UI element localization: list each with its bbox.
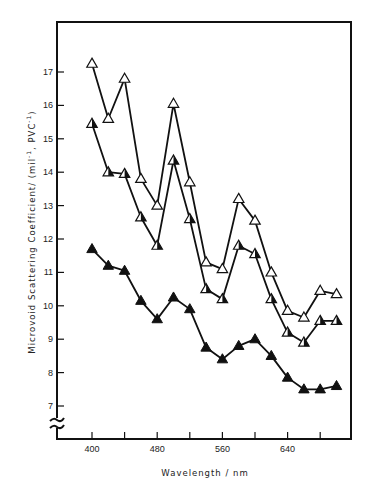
- open-triangle-marker: [119, 73, 129, 82]
- filled-triangle-marker: [168, 292, 178, 301]
- open-triangle-marker: [282, 305, 292, 314]
- series-open: [87, 58, 342, 321]
- plot-frame: [57, 22, 351, 439]
- data-series: [87, 58, 342, 393]
- y-axis-break-icon: [50, 418, 64, 428]
- y-tick-label: 15: [43, 134, 53, 144]
- open-triangle-marker: [185, 177, 195, 186]
- y-axis-ticks: 7891011121314151617: [43, 67, 64, 411]
- y-tick-label: 17: [43, 67, 53, 77]
- open-triangle-marker: [103, 113, 113, 122]
- y-tick-label: 13: [43, 201, 53, 211]
- filled-triangle-marker: [201, 342, 211, 351]
- open-triangle-marker: [266, 267, 276, 276]
- y-tick-label: 8: [48, 368, 53, 378]
- y-tick-label: 7: [48, 401, 53, 411]
- x-tick-label: 480: [150, 444, 165, 454]
- filled-triangle-marker: [87, 244, 97, 253]
- filled-triangle-marker: [331, 380, 341, 389]
- x-tick-label: 640: [280, 444, 295, 454]
- x-tick-label: 560: [215, 444, 230, 454]
- y-axis-title: Microvoid Scattering Coefficient/ (mil-1…: [25, 110, 37, 353]
- y-tick-label: 12: [43, 234, 53, 244]
- filled-triangle-marker: [136, 295, 146, 304]
- open-triangle-marker: [168, 98, 178, 107]
- filled-triangle-marker: [185, 304, 195, 313]
- y-tick-label: 11: [44, 267, 53, 277]
- x-axis-ticks: 400480560640: [84, 432, 320, 454]
- x-axis-title: Wavelength / nm: [161, 468, 248, 478]
- open-triangle-marker: [201, 257, 211, 266]
- filled-triangle-marker: [250, 334, 260, 343]
- open-triangle-marker: [233, 193, 243, 202]
- x-tick-label: 400: [84, 444, 99, 454]
- open-triangle-marker: [152, 200, 162, 209]
- filled-triangle-marker: [299, 384, 309, 393]
- open-triangle-marker: [315, 285, 325, 294]
- open-triangle-marker: [136, 173, 146, 182]
- scattering-coefficient-chart: 7891011121314151617 400480560640 Wavelen…: [0, 0, 372, 485]
- open-triangle-marker: [87, 58, 97, 67]
- y-tick-label: 9: [48, 334, 53, 344]
- y-tick-label: 14: [43, 167, 53, 177]
- y-tick-label: 10: [43, 301, 53, 311]
- y-tick-label: 16: [43, 100, 53, 110]
